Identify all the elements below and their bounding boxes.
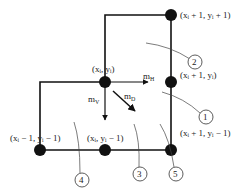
svg-text:3: 3	[137, 169, 142, 179]
node-bottom-center	[99, 144, 111, 156]
label-bottom-center: (xᵢ, yᵢ − 1)	[87, 133, 124, 143]
direction-arrows	[105, 82, 148, 120]
label-top-right: (xᵢ + 1, yᵢ + 1)	[180, 10, 231, 20]
label-mV: mV	[88, 94, 100, 105]
node-center	[99, 76, 111, 88]
svg-text:1: 1	[203, 112, 208, 122]
pixel-grid-diagram: (xᵢ + 1, yᵢ + 1) (xᵢ, yᵢ) (xᵢ + 1, yᵢ) (…	[0, 0, 251, 192]
label-mH: mH	[143, 71, 155, 82]
node-bottom-right	[165, 144, 177, 156]
region-leaders	[74, 43, 200, 173]
node-bottom-left	[34, 144, 46, 156]
label-mD: mD	[124, 91, 136, 102]
svg-text:5: 5	[173, 169, 178, 179]
label-bottom-left: (xᵢ − 1, yᵢ − 1)	[10, 133, 61, 143]
node-top-right	[165, 9, 177, 21]
svg-text:2: 2	[192, 57, 197, 67]
label-mid-right: (xᵢ + 1, yᵢ)	[180, 70, 217, 80]
svg-text:4: 4	[79, 175, 84, 185]
node-mid-right	[165, 76, 177, 88]
label-center: (xᵢ, yᵢ)	[92, 64, 114, 74]
label-bottom-right: (xᵢ + 1, yᵢ − 1)	[180, 128, 231, 138]
